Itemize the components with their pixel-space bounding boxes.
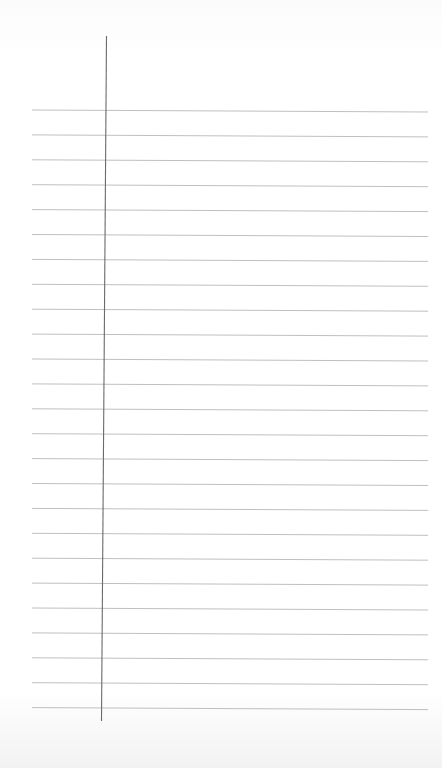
ruled-line [32,110,428,112]
ruled-line [32,533,428,535]
margin-line [102,36,107,721]
ruled-line [32,384,428,386]
ruled-line [32,135,428,137]
ruled-line [32,409,428,411]
ruled-line [32,633,428,635]
ruled-line [32,459,428,461]
ruled-line [32,558,428,560]
lined-paper-sheet [0,0,442,768]
ruled-line [32,334,428,336]
ruled-line [32,210,428,212]
ruled-line [32,235,428,237]
ruled-line [32,583,428,585]
ruled-line [32,683,428,685]
ruled-line [32,160,428,162]
ruled-line [32,608,428,610]
ruled-line [32,508,428,510]
ruled-line [32,284,428,286]
ruled-line [32,434,428,436]
ruled-lines [0,0,442,768]
ruled-line [32,484,428,486]
ruled-line [32,658,428,660]
ruled-line [32,309,428,311]
ruled-line [32,708,428,710]
ruled-line [32,259,428,261]
ruled-line [32,185,428,187]
ruled-line [32,359,428,361]
